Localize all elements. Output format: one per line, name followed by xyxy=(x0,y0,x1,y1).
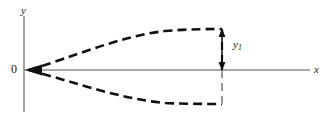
x-axis-label: x xyxy=(314,64,319,75)
figure-canvas xyxy=(0,0,330,126)
origin-arrowhead-icon xyxy=(25,65,42,76)
upper-envelope-curve xyxy=(29,29,222,70)
lower-envelope-curve xyxy=(29,70,222,104)
origin-label: 0 xyxy=(11,63,17,75)
y1-subscript: 1 xyxy=(238,43,242,52)
y-axis-label: y xyxy=(21,5,26,16)
physics-envelope-figure: y x 0 y1 xyxy=(0,0,330,126)
y1-measurement-label: y1 xyxy=(233,39,242,52)
